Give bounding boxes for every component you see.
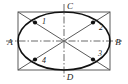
point-marker-4	[33, 57, 37, 61]
geometry-diagram: 1 2 3 4 A B C D	[0, 0, 128, 84]
point-marker-3	[91, 57, 95, 61]
vertex-label-b: B	[115, 37, 121, 47]
vertex-label-c: C	[67, 1, 74, 11]
vertex-label-d: D	[66, 72, 74, 82]
figure-container: 1 2 3 4 A B C D	[0, 0, 128, 84]
vertex-label-a: A	[6, 37, 13, 47]
point-label-4: 4	[42, 56, 46, 65]
point-marker-1	[33, 20, 37, 24]
point-label-1: 1	[42, 17, 46, 26]
point-label-3: 3	[97, 49, 102, 58]
point-marker-2	[91, 20, 95, 24]
point-label-2: 2	[99, 23, 103, 32]
